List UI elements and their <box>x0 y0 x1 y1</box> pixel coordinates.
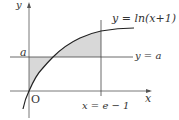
y-axis-label: y <box>16 0 22 10</box>
a-label: a <box>20 47 27 58</box>
origin-label: O <box>31 94 40 105</box>
curve-label: y = ln(x+1) <box>112 13 176 24</box>
line-label: y = a <box>135 51 161 61</box>
y-axis-arrow-icon <box>27 2 31 8</box>
vline-label: x = e − 1 <box>82 101 129 111</box>
shaded-region-left <box>29 57 53 91</box>
x-axis-label: x <box>145 93 151 104</box>
shaded-region-right <box>53 31 101 57</box>
